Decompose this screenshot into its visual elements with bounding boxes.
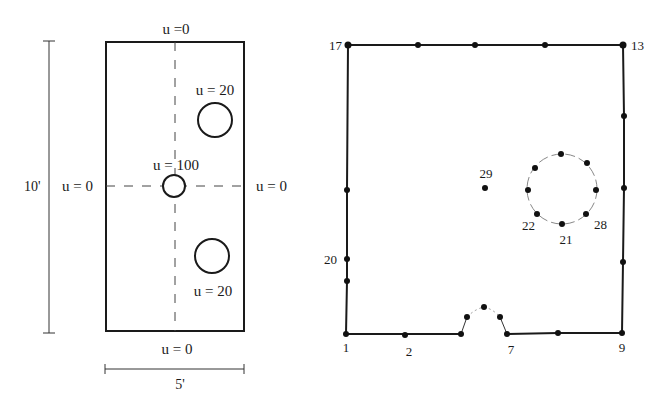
node-20 [344, 256, 350, 262]
left-bc-label: u = 0 [62, 178, 93, 194]
node-label-20: 20 [324, 252, 337, 267]
node-17 [345, 42, 352, 49]
lower-hole-circle [195, 239, 229, 273]
node [532, 165, 538, 171]
right-bc-label: u = 0 [256, 178, 287, 194]
node-label-28: 28 [594, 217, 607, 232]
hole-nodes [525, 151, 599, 227]
upper-hole-label: u = 20 [196, 82, 234, 98]
upper-hole-circle [198, 103, 232, 137]
node [472, 42, 478, 48]
node-label-29: 29 [480, 166, 493, 181]
center-hole-label: u = 100 [153, 157, 199, 173]
height-dim-label: 10' [24, 179, 41, 194]
width-dim-label: 5' [175, 377, 185, 392]
node-2 [402, 332, 408, 338]
node-label-13: 13 [631, 38, 644, 53]
node-9 [619, 330, 625, 336]
top-bc-label: u =0 [162, 21, 189, 37]
node-label-22: 22 [522, 218, 535, 233]
node-28 [583, 211, 589, 217]
right-panel: 1 2 7 9 13 17 20 21 22 28 29 [324, 38, 644, 359]
node [464, 314, 470, 320]
node-7 [504, 331, 510, 337]
node-22 [534, 211, 540, 217]
node-label-9: 9 [619, 340, 626, 355]
node-13 [620, 42, 627, 49]
node [481, 304, 487, 310]
lower-hole-label: u = 20 [194, 283, 232, 299]
node-1 [343, 331, 349, 337]
node [558, 151, 564, 157]
node [555, 330, 561, 336]
left-panel: 10' u =0 u = 0 u = 0 u = 0 u = 20 u = 10… [24, 21, 287, 392]
node-21 [559, 221, 565, 227]
node-label-2: 2 [406, 344, 413, 359]
node-label-21: 21 [560, 232, 573, 247]
diagram-canvas: 10' u =0 u = 0 u = 0 u = 0 u = 20 u = 10… [0, 0, 669, 401]
node [415, 42, 421, 48]
node [621, 185, 627, 191]
node [542, 42, 548, 48]
node [458, 331, 464, 337]
center-hole-circle [163, 175, 185, 197]
node [621, 113, 627, 119]
node-label-17: 17 [329, 38, 343, 53]
node [620, 259, 626, 265]
node-label-1: 1 [343, 340, 350, 355]
node [525, 187, 531, 193]
node [344, 187, 350, 193]
bottom-bc-label: u = 0 [162, 341, 193, 357]
node-29 [482, 185, 488, 191]
node [497, 314, 503, 320]
height-dimension [43, 41, 55, 333]
node [344, 278, 350, 284]
node [593, 187, 599, 193]
node-label-7: 7 [508, 342, 515, 357]
node [584, 160, 590, 166]
width-dimension [105, 364, 244, 374]
